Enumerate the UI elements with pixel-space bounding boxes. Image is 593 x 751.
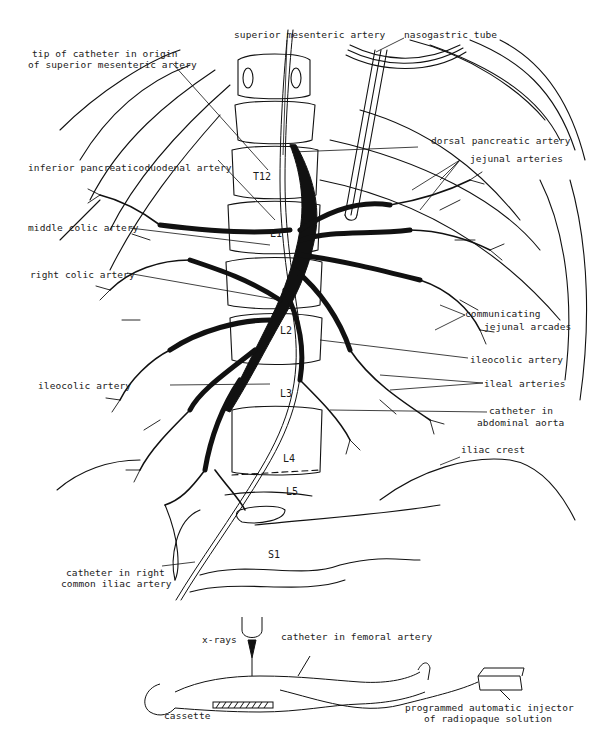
label-ileal-arteries: ileal arteries bbox=[484, 378, 565, 389]
label-superior-mesenteric-artery: superior mesenteric artery bbox=[234, 29, 385, 40]
label-communicating-line2: jejunal arcades bbox=[484, 321, 571, 332]
label-injector-line2: of radiopaque solution bbox=[424, 713, 552, 724]
arterial-tree bbox=[88, 145, 504, 510]
vertebra-l1: L1 bbox=[270, 228, 282, 239]
label-communicating-line1: communicating bbox=[465, 308, 541, 319]
label-ileocolic-artery-left: ileocolic artery bbox=[38, 380, 131, 391]
label-inferior-pancreaticoduodenal-artery: inferior pancreaticoduodenal artery bbox=[28, 162, 232, 173]
label-nasogastric-tube: nasogastric tube bbox=[404, 29, 497, 40]
vertebra-l4: L4 bbox=[283, 453, 295, 464]
label-catheter-iliac-line1: catheter in right bbox=[66, 567, 165, 578]
vertebra-l2: L2 bbox=[280, 325, 292, 336]
vertebra-l5: L5 bbox=[286, 486, 298, 497]
xray-tube bbox=[242, 617, 262, 638]
label-tip-of-catheter-line2: of superior mesenteric artery bbox=[28, 59, 197, 70]
label-cassette: cassette bbox=[164, 710, 211, 721]
label-tip-of-catheter-line1: tip of catheter in origin bbox=[32, 48, 178, 59]
label-catheter-iliac-line2: common iliac artery bbox=[61, 578, 172, 589]
label-injector-line1: programmed automatic injector bbox=[405, 702, 574, 713]
vertebra-s1: S1 bbox=[268, 549, 280, 560]
label-catheter-femoral: catheter in femoral artery bbox=[281, 631, 432, 642]
label-middle-colic-artery: middle colic artery bbox=[28, 222, 139, 233]
leader-lines bbox=[127, 38, 487, 566]
label-xrays: x-rays bbox=[202, 634, 237, 645]
label-ileocolic-artery-right: ileocolic artery bbox=[470, 354, 563, 365]
vertebra-l3: L3 bbox=[280, 388, 292, 399]
label-iliac-crest: iliac crest bbox=[461, 444, 525, 455]
ribs-right bbox=[320, 40, 587, 400]
nasogastric-tube bbox=[345, 45, 466, 220]
label-catheter-aorta-line2: abdominal aorta bbox=[477, 417, 564, 428]
label-right-colic-artery: right colic artery bbox=[30, 269, 135, 280]
label-catheter-aorta-line1: catheter in bbox=[489, 405, 553, 416]
vertebra-t12: T12 bbox=[253, 171, 271, 182]
label-jejunal-arteries: jejunal arteries bbox=[470, 153, 563, 164]
vertebral-column bbox=[225, 54, 440, 525]
label-dorsal-pancreatic-artery: dorsal pancreatic artery bbox=[431, 135, 571, 146]
